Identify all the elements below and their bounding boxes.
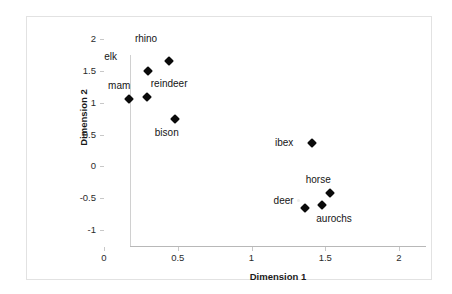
artifact-speck <box>297 199 300 202</box>
y-tick-mark <box>100 71 104 72</box>
y-tick-label: -1 <box>56 225 96 235</box>
x-tick-mark <box>104 247 105 251</box>
x-tick-label: 2 <box>379 253 419 263</box>
x-tick-label: 0.5 <box>158 253 198 263</box>
data-point-label: rhino <box>135 33 157 44</box>
y-tick-label: 1 <box>56 98 96 108</box>
y-tick-label: 2 <box>56 34 96 44</box>
y-tick-label: -0.5 <box>56 193 96 203</box>
x-tick-label: 0 <box>84 253 124 263</box>
data-point-label: deer <box>274 195 294 206</box>
data-point-label: elk <box>104 51 117 62</box>
data-point-label: ibex <box>275 137 293 148</box>
y-tick-mark <box>100 39 104 40</box>
y-tick-label: 0 <box>56 161 96 171</box>
x-tick-label: 1 <box>232 253 272 263</box>
x-tick-label: 1.5 <box>305 253 345 263</box>
data-point-label: reindeer <box>151 78 188 89</box>
y-tick-mark <box>100 230 104 231</box>
x-tick-mark <box>252 247 253 251</box>
y-axis-title: Dimension 2 <box>78 58 89 178</box>
x-tick-mark <box>399 247 400 251</box>
data-point-label: aurochs <box>316 213 352 224</box>
y-tick-mark <box>100 103 104 104</box>
x-tick-mark <box>325 247 326 251</box>
data-point-label: mam <box>108 80 130 91</box>
data-point-label: bison <box>155 127 179 138</box>
y-tick-mark <box>100 198 104 199</box>
chart-frame: 21.510.50-0.5-1 00.511.52 Dimension 1 Di… <box>26 16 432 280</box>
x-axis-line <box>130 246 426 247</box>
x-axis-title: Dimension 1 <box>130 271 426 282</box>
y-tick-mark <box>100 166 104 167</box>
x-tick-mark <box>178 247 179 251</box>
y-tick-label: 1.5 <box>56 66 96 76</box>
y-tick-mark <box>100 135 104 136</box>
y-tick-label: 0.5 <box>56 130 96 140</box>
data-point-label: horse <box>306 174 331 185</box>
